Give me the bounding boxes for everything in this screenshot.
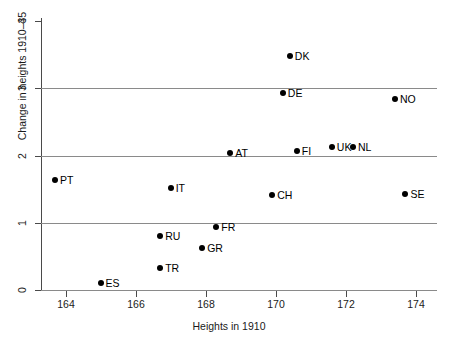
x-tick-label-168: 168	[186, 299, 226, 310]
data-point-fr	[213, 224, 219, 230]
data-point-se	[402, 191, 408, 197]
data-point-label-ru: RU	[165, 230, 180, 241]
data-point-ch	[269, 192, 275, 198]
data-point-label-pt: PT	[60, 175, 73, 186]
data-point-gr	[199, 245, 205, 251]
y-tick-label-1: 1	[17, 213, 28, 233]
data-point-dk	[287, 53, 293, 59]
data-point-es	[98, 280, 104, 286]
data-point-label-tr: TR	[165, 262, 179, 273]
gridline-y-1	[41, 223, 437, 224]
data-point-tr	[157, 265, 163, 271]
y-axis-title: Change in heights 1910–35	[16, 0, 28, 186]
y-tick-label-0: 0	[17, 280, 28, 300]
data-point-label-fi: FI	[302, 146, 311, 157]
data-point-pt	[52, 177, 58, 183]
y-tick-3	[35, 88, 41, 89]
data-point-label-ch: CH	[277, 189, 292, 200]
data-point-label-it: IT	[176, 182, 185, 193]
data-point-fi	[294, 148, 300, 154]
x-tick-label-174: 174	[396, 299, 436, 310]
x-tick-label-172: 172	[326, 299, 366, 310]
data-point-label-at: AT	[235, 147, 248, 158]
data-point-label-de: DE	[288, 87, 303, 98]
data-point-label-se: SE	[410, 188, 424, 199]
x-tick-172	[346, 291, 347, 297]
data-point-no	[392, 96, 398, 102]
data-point-label-nl: NL	[358, 141, 371, 152]
data-point-de	[280, 90, 286, 96]
data-point-label-fr: FR	[221, 222, 235, 233]
y-tick-4	[35, 21, 41, 22]
data-point-label-es: ES	[106, 278, 120, 289]
y-axis-line	[41, 18, 42, 290]
x-tick-166	[136, 291, 137, 297]
gridline-y-3	[41, 88, 437, 89]
data-point-label-no: NO	[400, 94, 416, 105]
data-point-ru	[157, 233, 163, 239]
data-point-label-dk: DK	[295, 50, 310, 61]
x-tick-174	[416, 291, 417, 297]
x-tick-label-170: 170	[256, 299, 296, 310]
data-point-nl	[350, 144, 356, 150]
x-tick-170	[276, 291, 277, 297]
x-axis-title: Heights in 1910	[0, 320, 458, 332]
y-tick-0	[35, 290, 41, 291]
data-point-label-gr: GR	[207, 242, 223, 253]
scatter-plot-figure: 01234 164166168170172174 PTESTRRUITGRFRA…	[0, 0, 458, 348]
x-tick-164	[66, 291, 67, 297]
y-tick-2	[35, 156, 41, 157]
data-point-uk	[329, 144, 335, 150]
gridline-y-0	[41, 290, 437, 291]
y-tick-1	[35, 223, 41, 224]
data-point-it	[168, 185, 174, 191]
x-tick-label-164: 164	[46, 299, 86, 310]
x-tick-168	[206, 291, 207, 297]
x-tick-label-166: 166	[116, 299, 156, 310]
data-point-at	[227, 150, 233, 156]
